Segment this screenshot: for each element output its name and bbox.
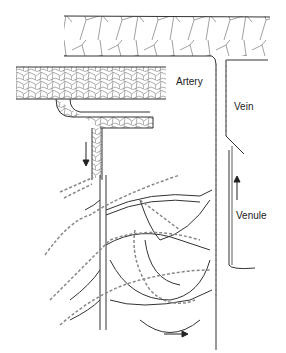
vein-band [64,16,270,60]
diagram-graphic [0,0,286,353]
vein-label: Vein [234,101,253,112]
capillary-mesh [45,175,210,325]
venule [229,146,255,269]
capillary-network [70,175,212,333]
microcirculation-diagram: Artery Vein Venule [0,0,286,353]
artery-label: Artery [176,76,203,87]
arrow-up-icon [234,176,240,200]
artery [16,67,166,180]
venule-label: Venule [236,210,267,221]
arrow-down-icon [83,142,89,166]
